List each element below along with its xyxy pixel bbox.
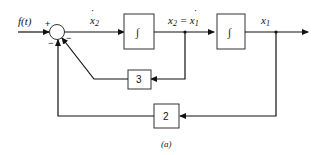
minus-sign-left: − [48, 38, 53, 48]
gain-2-value: 2 [163, 111, 169, 122]
figure-caption: (a) [161, 139, 172, 149]
plus-sign: + [45, 19, 50, 29]
gain-3-value: 3 [136, 74, 142, 85]
block-diagram: f(t) + − − x2 ˙ ∫ x2 = x1 ˙ ∫ x1 3 2 (a) [0, 0, 326, 155]
x1dot-dot: ˙ [193, 7, 197, 19]
x2dot-dot: ˙ [90, 7, 94, 19]
x1-label: x1 [260, 14, 270, 28]
minus-sign-right: − [66, 33, 71, 43]
inner-feedback-return [62, 38, 128, 79]
inner-feedback-path [151, 32, 185, 79]
input-label: f(t) [18, 15, 32, 28]
